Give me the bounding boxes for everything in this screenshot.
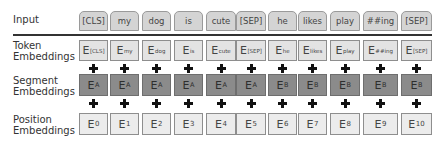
segment-label-line2: Embeddings [13,86,75,97]
position-embedding-base: E [151,118,158,131]
token-embedding-base: E [82,44,89,57]
position-embedding: E3 [174,113,203,135]
position-embedding-subscript: 9 [382,120,386,128]
position-embedding: E1 [110,113,139,135]
segment-embedding-base: E [151,79,158,92]
plus-icon [308,64,317,73]
segment-embedding-base: E [339,79,346,92]
plus-icon [341,99,350,108]
token-label-line2: Embeddings [13,51,75,62]
token-embedding: Ehe [268,40,297,61]
plus-icon [376,99,385,108]
segment-label-line1: Segment [13,75,75,86]
plus-icon [89,99,98,108]
position-embedding-base: E [88,118,95,131]
segment-embedding-subscript: A [158,81,162,89]
plus-icon [308,99,317,108]
input-token: cute [206,11,236,31]
position-embedding-subscript: 8 [346,120,350,128]
segment-embedding-base: E [215,79,222,92]
position-embedding-base: E [339,118,346,131]
token-embedding: Emy [110,40,139,61]
segment-embedding-subscript: A [95,81,99,89]
token-embedding-subscript: [SEP] [413,48,428,54]
position-embedding-subscript: 10 [416,120,425,128]
token-embedding-subscript: [CLS] [90,48,105,54]
segment-embedding-subscript: A [190,81,194,89]
input-label-text: Input [13,14,39,25]
token-embedding-base: E [148,44,155,57]
plus-icon [89,64,98,73]
position-embedding: E4 [206,113,236,135]
token-embedding-subscript: my [124,48,133,54]
token-embedding-subscript: dog [155,48,165,54]
segment-embedding-subscript: A [223,81,227,89]
token-embedding-base: E [183,44,190,57]
position-embedding-subscript: 0 [95,120,99,128]
input-token: my [110,11,139,31]
segment-embedding-subscript: B [418,81,422,89]
token-embedding-subscript: likes [310,48,322,54]
plus-icon [412,99,421,108]
position-embedding-base: E [408,118,415,131]
segment-embedding: EB [330,74,360,96]
position-embedding-subscript: 3 [190,120,194,128]
plus-icon [184,99,193,108]
input-token: play [330,11,360,31]
segment-embedding-subscript: B [382,81,386,89]
segment-embedding: EB [401,74,432,96]
position-embedding: E2 [142,113,171,135]
segment-embedding-base: E [245,79,252,92]
token-embedding: Edog [142,40,171,61]
plus-icon [278,64,287,73]
segment-embedding-base: E [88,79,95,92]
position-embedding-base: E [245,118,252,131]
position-embedding-subscript: 7 [314,120,318,128]
token-embedding-base: E [303,44,310,57]
token-embedding-subscript: ##ing [375,48,393,54]
segment-embedding: EB [363,74,398,96]
token-embedding-subscript: is [190,48,194,54]
token-embedding-subscript: [SEP] [247,48,262,54]
position-embedding: E9 [363,113,398,135]
position-embedding-subscript: 4 [222,120,226,128]
plus-icon [247,99,256,108]
input-token: [SEP] [401,11,432,31]
token-embedding: E##ing [363,40,398,61]
token-embedding-subscript: play [343,48,355,54]
plus-icon [217,99,226,108]
input-token: he [268,11,297,31]
input-token: dog [142,11,171,31]
segment-embedding-subscript: B [284,81,288,89]
token-embedding: Elikes [298,40,327,61]
token-embedding-subscript: cute [219,48,231,54]
token-embedding: E[SEP] [236,40,266,61]
plus-icon [247,64,256,73]
token-embedding: Ecute [206,40,236,61]
input-token: [CLS] [79,11,108,31]
segment-embedding-subscript: B [346,81,350,89]
token-embedding: Eplay [330,40,360,61]
plus-icon [412,64,421,73]
segment-embedding: EB [268,74,297,96]
segment-embedding-base: E [119,79,126,92]
position-embedding-base: E [277,118,284,131]
segment-embedding-base: E [411,79,418,92]
input-token: likes [298,11,327,31]
token-embeddings-label: Token Embeddings [13,40,75,62]
plus-icon [278,99,287,108]
token-embedding-base: E [240,44,247,57]
token-embedding: E[CLS] [79,40,108,61]
plus-icon [217,64,226,73]
position-embedding-base: E [375,118,382,131]
input-token: ##ing [363,11,398,31]
position-embedding-base: E [307,118,314,131]
segment-embedding-subscript: A [253,81,257,89]
divider-line [13,34,432,36]
segment-embeddings-label: Segment Embeddings [13,75,75,97]
token-embedding-subscript: he [283,48,290,54]
position-label-line2: Embeddings [13,125,75,136]
token-embedding-base: E [335,44,342,57]
position-embedding: E6 [268,113,297,135]
input-token: is [174,11,203,31]
